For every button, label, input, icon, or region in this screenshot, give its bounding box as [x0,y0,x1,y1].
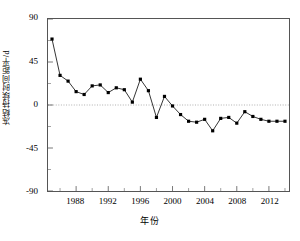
data-point-marker [187,120,190,123]
chart-plot-svg [48,19,289,191]
x-axis-tick-labels: 1988199219962000200420082012 [0,196,300,208]
data-point-marker [91,84,94,87]
data-point-marker [155,116,158,119]
chart-container: 冻结持续时间距平/d 90450-45-90 19881992199620002… [0,0,300,241]
data-point-marker [147,89,150,92]
data-point-marker [243,110,246,113]
data-point-marker [107,91,110,94]
data-point-marker [267,120,270,123]
data-series-line [52,39,285,131]
data-point-marker [235,122,238,125]
data-point-marker [179,113,182,116]
plot-area [47,18,290,192]
data-point-marker [58,74,61,77]
x-axis-tick-label: 2000 [164,196,182,206]
data-point-marker [99,83,102,86]
data-point-marker [115,86,118,89]
x-axis-tick-label: 2004 [196,196,214,206]
data-point-marker [50,37,53,40]
data-point-marker [219,117,222,120]
data-point-marker [139,78,142,81]
x-axis-tick-label: 2012 [261,196,279,206]
data-point-marker [131,101,134,104]
y-axis-tick-label: -90 [26,187,38,196]
data-point-marker [171,104,174,107]
data-point-marker [283,120,286,123]
data-point-marker [211,129,214,132]
y-axis-tick-label: 90 [29,13,38,22]
data-point-marker [83,93,86,96]
y-axis-tick-label: 0 [34,100,39,109]
data-point-marker [275,120,278,123]
data-point-marker [123,88,126,91]
y-axis-tick-label: 45 [29,57,38,66]
data-point-marker [259,118,262,121]
x-axis-title: 年份 [0,214,300,227]
data-point-marker [163,95,166,98]
x-axis-tick-label: 1992 [99,196,117,206]
data-point-marker [251,115,254,118]
x-axis-tick-label: 2008 [228,196,246,206]
x-axis-tick-label: 1996 [131,196,149,206]
data-point-marker [203,118,206,121]
data-point-marker [66,80,69,83]
x-axis-tick-label: 1988 [66,196,84,206]
data-point-marker [227,116,230,119]
y-axis-tick-label: -45 [26,144,38,153]
data-point-marker [195,121,198,124]
data-point-marker [75,90,78,93]
